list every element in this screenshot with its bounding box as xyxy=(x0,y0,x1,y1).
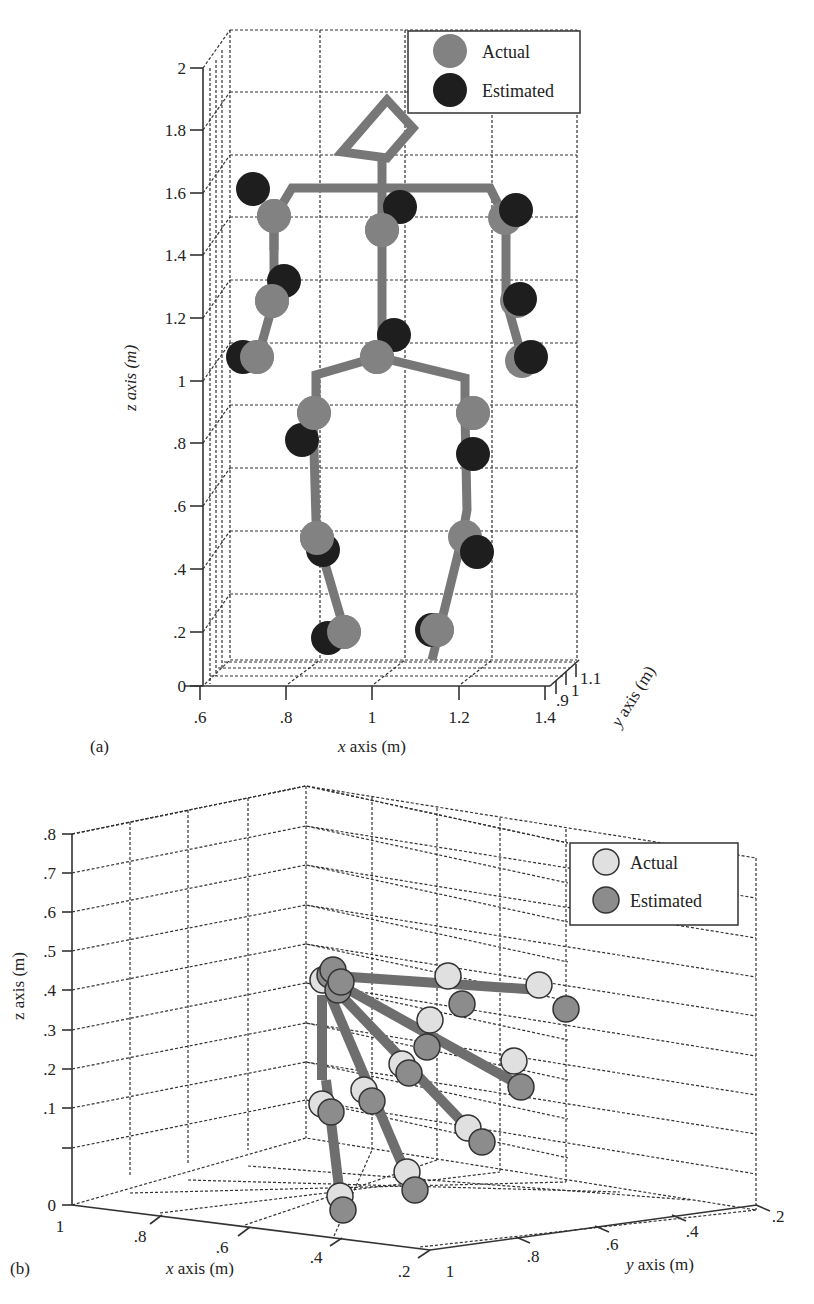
legend-actual-label: Actual xyxy=(482,42,530,62)
x-axis-label: x axis (m) xyxy=(337,737,406,756)
x-tick: .4 xyxy=(310,1248,323,1267)
panel-a-axes: 2 1.8 1.6 1.4 1.2 1 .8 .6 .4 .2 0 .6 .8 … xyxy=(90,59,659,756)
z-tick: 1.4 xyxy=(165,246,187,265)
x-tick: 1 xyxy=(56,1217,65,1236)
z-tick: .2 xyxy=(173,623,186,642)
z-tick: .2 xyxy=(43,1060,56,1079)
panel-label: (a) xyxy=(90,737,109,756)
y-tick: .8 xyxy=(527,1247,540,1266)
y-tick: .9 xyxy=(556,691,569,710)
x-tick: 1 xyxy=(368,708,377,727)
y-axis-label: y axis (m) xyxy=(606,662,659,731)
y-tick: 1 xyxy=(446,1262,455,1281)
x-tick: 1.2 xyxy=(448,708,469,727)
z-axis-label: z axis (m) xyxy=(9,952,28,1020)
panel-b-legend: Actual Estimated xyxy=(570,843,738,925)
z-tick: .4 xyxy=(43,981,56,1000)
legend-actual-marker xyxy=(593,849,619,875)
legend-estimated-marker xyxy=(433,73,467,107)
z-tick: .3 xyxy=(43,1021,56,1040)
legend-estimated-label: Estimated xyxy=(630,891,702,911)
z-tick: 2 xyxy=(178,59,187,78)
legend-estimated-marker xyxy=(593,887,619,913)
z-tick: .5 xyxy=(43,942,56,961)
y-tick: .4 xyxy=(686,1222,699,1241)
legend-estimated-label: Estimated xyxy=(482,81,554,101)
z-tick: .6 xyxy=(43,903,56,922)
panel-a-skeleton xyxy=(258,100,522,660)
z-tick: 0 xyxy=(178,677,187,696)
panel-a: 2 1.8 1.6 1.4 1.2 1 .8 .6 .4 .2 0 .6 .8 … xyxy=(90,30,659,756)
figure-canvas: 2 1.8 1.6 1.4 1.2 1 .8 .6 .4 .2 0 .6 .8 … xyxy=(0,0,814,1304)
legend-actual-label: Actual xyxy=(630,853,678,873)
x-tick: .8 xyxy=(280,708,293,727)
panel-a-legend: Actual Estimated xyxy=(408,31,580,113)
y-tick: .2 xyxy=(772,1207,785,1226)
y-axis-label: y axis (m) xyxy=(624,1255,694,1274)
x-tick: .6 xyxy=(216,1238,229,1257)
x-tick: .8 xyxy=(134,1227,147,1246)
z-axis-label: z axis (m) xyxy=(121,345,140,412)
z-tick: .4 xyxy=(173,560,186,579)
x-tick: 1.4 xyxy=(534,708,556,727)
y-tick: 1.1 xyxy=(580,669,601,688)
z-tick: .7 xyxy=(43,864,56,883)
z-tick: 1.2 xyxy=(165,309,186,328)
z-tick: .8 xyxy=(173,434,186,453)
panel-label: (b) xyxy=(10,1259,30,1278)
z-tick: 0 xyxy=(48,1196,57,1215)
z-tick: .6 xyxy=(173,497,186,516)
panel-b-joints xyxy=(309,957,579,1223)
y-tick: 1 xyxy=(571,681,580,700)
z-tick: .8 xyxy=(43,825,56,844)
x-tick: .2 xyxy=(398,1262,411,1281)
z-tick: .1 xyxy=(43,1099,56,1118)
z-tick: 1.8 xyxy=(165,121,186,140)
panel-b: .8 .7 .6 .5 .4 .3 .2 .1 0 1 .8 .6 .4 .2 … xyxy=(9,786,784,1281)
z-tick: 1.6 xyxy=(165,184,186,203)
x-tick: .6 xyxy=(194,708,207,727)
x-axis-label: x axis (m) xyxy=(165,1259,234,1278)
legend-actual-marker xyxy=(433,34,467,68)
y-tick: .6 xyxy=(606,1235,619,1254)
z-tick: 1 xyxy=(178,372,187,391)
